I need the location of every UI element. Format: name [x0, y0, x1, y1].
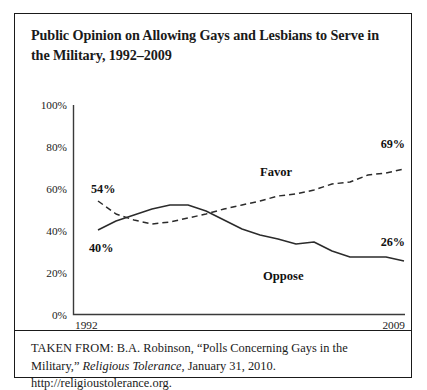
line-chart-svg: 100% 80% 60% 40% 20% 0% 54% 40% 69% 26% …: [15, 74, 411, 329]
y-tick-label-60: 60%: [46, 183, 67, 195]
annotation-favor-end: 69%: [381, 137, 405, 151]
chart-axes: [74, 105, 406, 315]
series-line-oppose: [98, 205, 404, 261]
annotation-oppose-end: 26%: [381, 235, 405, 249]
y-tick-label-0: 0%: [52, 309, 68, 321]
figure-container: Public Opinion on Allowing Gays and Lesb…: [14, 13, 412, 378]
x-tick-label-end: 2009: [382, 319, 405, 329]
y-tick-label-100: 100%: [41, 99, 68, 111]
y-tick-label-40: 40%: [46, 225, 67, 237]
series-line-favor: [98, 169, 404, 224]
chart-plot-area: 100% 80% 60% 40% 20% 0% 54% 40% 69% 26% …: [15, 74, 411, 329]
series-label-oppose: Oppose: [263, 269, 304, 283]
citation-source-title: Religious Tolerance: [83, 359, 182, 373]
footer-divider: [15, 330, 411, 331]
x-tick-label-start: 1992: [75, 319, 98, 329]
annotation-oppose-start: 40%: [89, 241, 113, 255]
y-tick-label-80: 80%: [46, 141, 67, 153]
y-tick-label-20: 20%: [46, 267, 67, 279]
series-label-favor: Favor: [260, 165, 293, 179]
annotation-favor-start: 54%: [91, 182, 115, 196]
source-citation: TAKEN FROM: B.A. Robinson, “Polls Concer…: [31, 340, 397, 390]
page-title: Public Opinion on Allowing Gays and Lesb…: [31, 26, 391, 65]
